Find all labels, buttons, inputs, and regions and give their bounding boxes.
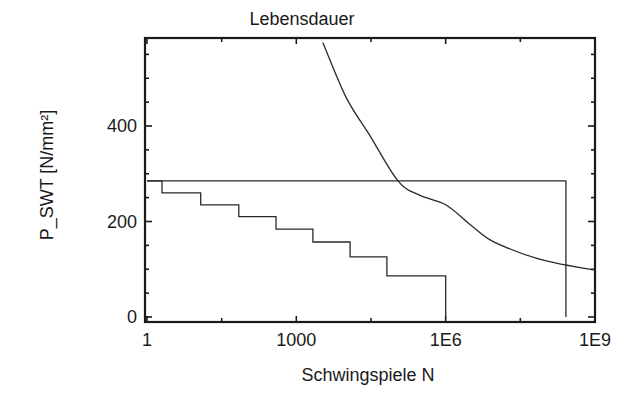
y-tick-label: 200 [107, 212, 137, 232]
x-tick-label: 1E9 [579, 330, 611, 350]
axis-ticks [145, 38, 595, 322]
y-tick-label: 0 [127, 307, 137, 327]
chart-title: Lebensdauer [249, 9, 354, 29]
x-tick-label: 1E6 [430, 330, 462, 350]
plot-frame [145, 38, 595, 322]
series-line-1 [147, 181, 566, 317]
x-tick-label: 1000 [276, 330, 316, 350]
series-line-0 [147, 181, 446, 317]
y-axis-label: P_SWT [N/mm²] [37, 110, 58, 241]
series-group [147, 42, 595, 317]
y-tick-label: 400 [107, 116, 137, 136]
y-tick-labels: 0200400 [107, 116, 137, 327]
series-line-2 [323, 42, 595, 270]
x-axis-label: Schwingspiele N [301, 365, 434, 385]
x-tick-labels: 110001E61E9 [142, 330, 611, 350]
x-tick-label: 1 [142, 330, 152, 350]
chart: Lebensdauer 110001E61E9 0200400 Schwings… [0, 0, 641, 411]
